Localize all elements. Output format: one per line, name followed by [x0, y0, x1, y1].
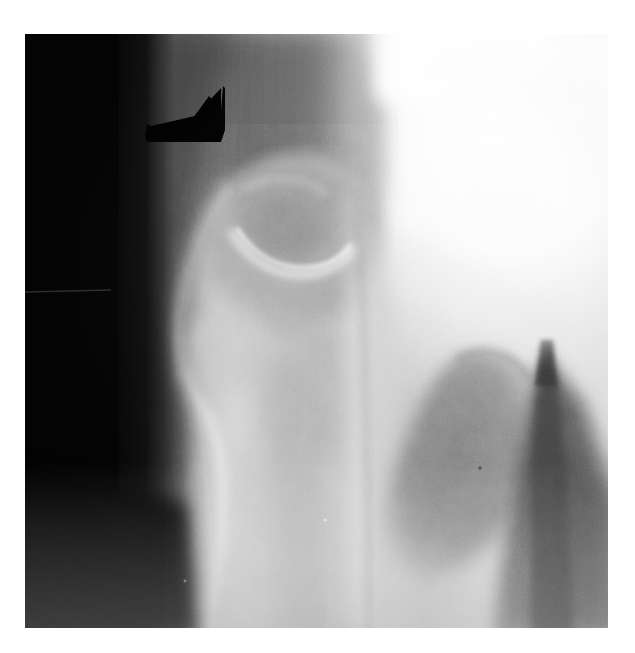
radiograph-image — [25, 34, 608, 628]
radiograph-figure — [0, 0, 635, 653]
xray-canvas — [25, 34, 608, 628]
bottom-fade — [25, 34, 608, 628]
